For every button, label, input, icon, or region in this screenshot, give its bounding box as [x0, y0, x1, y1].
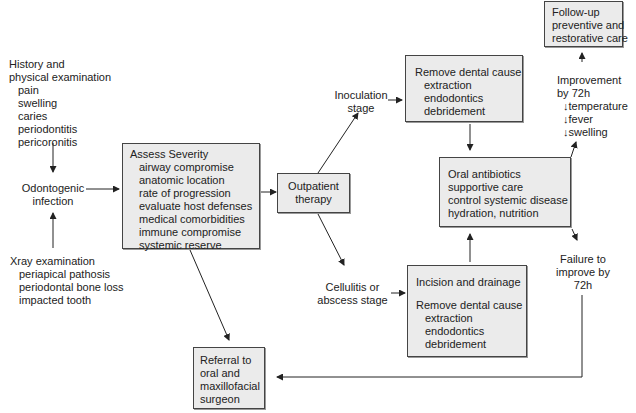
xray-item: periodontal bone loss — [10, 281, 124, 294]
outpatient-therapy-box: Outpatient therapy — [277, 173, 350, 213]
inoculation-stage-label: Inoculation stage — [331, 89, 391, 115]
incision-drainage-box: Incision and drainage Remove dental caus… — [407, 265, 527, 357]
xray-examination: Xray examination periapical pathosis per… — [10, 255, 124, 307]
assess-title: Assess Severity — [130, 148, 252, 161]
history-item: periodontitis — [9, 123, 111, 136]
xray-item: periapical pathosis — [10, 268, 124, 281]
improvement-label: Improvement by 72h ↓temperature ↓fever ↓… — [557, 74, 628, 139]
assess-severity-box: Assess Severity airway compromise anatom… — [122, 143, 260, 249]
history-item: caries — [9, 110, 111, 123]
cellulitis-stage-label: Cellulitis or abscess stage — [315, 281, 390, 307]
history-item: pain — [9, 84, 111, 97]
history-physical-exam: History and physical examination pain sw… — [9, 58, 111, 149]
history-item: swelling — [9, 97, 111, 110]
failure-label: Failure to improve by 72h — [552, 253, 614, 292]
referral-box: Referral to oral and maxillofacial surge… — [193, 347, 265, 409]
follow-up-box: Follow-up preventive and restorative car… — [544, 1, 623, 47]
remove-dental-cause-box: Remove dental cause extraction endodonti… — [405, 55, 523, 122]
oral-antibiotics-box: Oral antibiotics supportive care control… — [439, 157, 571, 227]
odontogenic-infection-node: Odontogenic infection — [18, 182, 88, 208]
history-item: pericoronitis — [9, 136, 111, 149]
xray-item: impacted tooth — [10, 294, 124, 307]
